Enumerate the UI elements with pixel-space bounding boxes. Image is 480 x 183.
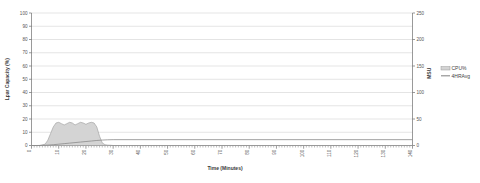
y-axis-right-tick-label: 250 (417, 11, 425, 16)
y-axis-right-tick-label: 200 (417, 37, 425, 42)
y-axis-left-tick-label: 40 (22, 90, 28, 95)
y-axis-left-tick-label: 80 (22, 37, 28, 42)
y-axis-right-tick-label: 100 (417, 90, 425, 95)
legend-swatch-cpu-percent (441, 67, 450, 70)
x-axis-tick-label: 140 (409, 149, 414, 157)
x-axis-tick-label: 10 (55, 149, 60, 155)
x-axis-tick-label: 130 (381, 149, 386, 157)
y-axis-right-tick-label: 150 (417, 64, 425, 69)
x-axis-tick-label: 20 (82, 149, 87, 155)
y-axis-left-tick-label: 90 (22, 24, 28, 29)
y-axis-left-tick-label: 20 (22, 117, 28, 122)
legend-label-cpu-percent: CPU% (452, 65, 468, 71)
x-axis-title: Time (Minutes) (207, 165, 243, 171)
y-axis-right-title: MSU (426, 67, 432, 79)
x-axis-tick-label: 90 (272, 149, 277, 155)
cpu-capacity-msu-chart: 0102030405060708090100 050100150200250 0… (0, 0, 480, 183)
y-axis-left-tick-label: 10 (22, 130, 28, 135)
legend-label-fourhr-avg: 4HRAvg (452, 73, 471, 79)
y-axis-left-tick-label: 60 (22, 64, 28, 69)
x-axis-tick-label: 80 (245, 149, 250, 155)
x-axis-tick-label: 110 (327, 149, 332, 157)
x-axis-tick-label: 120 (354, 149, 359, 157)
x-axis-tick-label: 100 (300, 149, 305, 157)
x-axis-tick-label: 60 (191, 149, 196, 155)
y-axis-left-tick-label: 100 (20, 11, 28, 16)
y-axis-left-tick-label: 50 (22, 77, 28, 82)
x-axis-tick-label: 40 (136, 149, 141, 155)
x-axis-tick-label: 50 (164, 149, 169, 155)
y-axis-left-tick-label: 30 (22, 103, 28, 108)
x-axis-tick-label: 70 (218, 149, 223, 155)
x-axis-tick-label: 30 (109, 149, 114, 155)
y-axis-right-tick-label: 0 (417, 143, 420, 148)
chart-container: 0102030405060708090100 050100150200250 0… (0, 0, 480, 183)
y-axis-left-tick-label: 0 (25, 143, 28, 148)
y-axis-left-title: Lpar Capacity (%) (4, 58, 10, 101)
y-axis-left-tick-label: 70 (22, 50, 28, 55)
y-axis-right-tick-label: 50 (417, 117, 423, 122)
x-axis-tick-label: 0 (28, 149, 33, 152)
